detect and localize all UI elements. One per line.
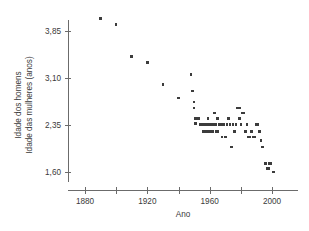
data-point bbox=[243, 112, 246, 115]
data-point bbox=[257, 123, 260, 126]
data-point bbox=[215, 123, 218, 126]
y-tick-label: 1,60 bbox=[45, 168, 61, 177]
y-tick-label: 3,85 bbox=[45, 27, 61, 36]
data-point bbox=[202, 123, 205, 126]
data-point bbox=[230, 146, 233, 149]
data-point bbox=[219, 123, 222, 126]
data-point bbox=[238, 107, 241, 110]
data-point bbox=[229, 123, 232, 126]
data-point bbox=[258, 130, 261, 133]
y-axis-tick-labels: 1,602,353,103,85 bbox=[45, 27, 61, 177]
data-point bbox=[115, 23, 118, 26]
data-point bbox=[233, 130, 236, 133]
y-tick-label: 2,35 bbox=[45, 121, 61, 130]
data-point bbox=[244, 130, 247, 133]
data-point bbox=[193, 101, 196, 104]
x-axis-title: Ano bbox=[176, 210, 191, 219]
data-point bbox=[162, 83, 165, 86]
data-point bbox=[224, 136, 227, 139]
data-point bbox=[194, 117, 197, 120]
data-point bbox=[249, 136, 252, 139]
data-point-group bbox=[99, 17, 275, 173]
y-axis-title-line1: Idade dos homens bbox=[14, 71, 23, 138]
data-point bbox=[269, 162, 272, 165]
data-point bbox=[264, 162, 267, 165]
x-tick-label: 1880 bbox=[76, 197, 95, 206]
data-point bbox=[207, 117, 210, 120]
data-point bbox=[240, 123, 243, 126]
data-point bbox=[254, 136, 257, 139]
y-tick-label: 3,10 bbox=[45, 74, 61, 83]
data-point bbox=[190, 73, 193, 76]
data-point bbox=[208, 130, 211, 133]
scatter-plot-svg: 1,602,353,103,85 1880192019602000 Ano Id… bbox=[0, 0, 309, 231]
data-point bbox=[227, 117, 230, 120]
data-point bbox=[205, 123, 208, 126]
x-tick-label: 1920 bbox=[138, 197, 157, 206]
data-point bbox=[130, 55, 133, 58]
y-axis-title-line2: Idade das mulheres (anos) bbox=[25, 56, 34, 154]
data-point bbox=[238, 117, 241, 120]
data-point bbox=[216, 130, 219, 133]
data-point bbox=[194, 122, 197, 125]
data-point bbox=[235, 123, 238, 126]
data-point bbox=[213, 112, 216, 115]
data-point bbox=[193, 107, 196, 110]
data-point bbox=[226, 123, 229, 126]
x-tick-label: 1960 bbox=[201, 197, 220, 206]
data-point bbox=[205, 130, 208, 133]
data-point bbox=[99, 17, 102, 20]
data-point bbox=[197, 117, 200, 120]
data-point bbox=[191, 90, 194, 93]
data-point bbox=[250, 130, 253, 133]
data-point bbox=[221, 136, 224, 139]
data-point bbox=[272, 171, 275, 174]
data-point bbox=[232, 123, 235, 126]
data-point bbox=[260, 139, 263, 142]
data-point bbox=[268, 167, 271, 170]
data-point bbox=[222, 123, 225, 126]
x-tick-label: 2000 bbox=[263, 197, 282, 206]
data-point bbox=[216, 117, 219, 120]
chart-figure: 1,602,353,103,85 1880192019602000 Ano Id… bbox=[0, 0, 309, 231]
data-point bbox=[177, 97, 180, 100]
data-point bbox=[261, 146, 264, 149]
data-point bbox=[146, 61, 149, 64]
x-axis-tick-labels: 1880192019602000 bbox=[76, 197, 282, 206]
data-point bbox=[246, 123, 249, 126]
data-point bbox=[211, 130, 214, 133]
